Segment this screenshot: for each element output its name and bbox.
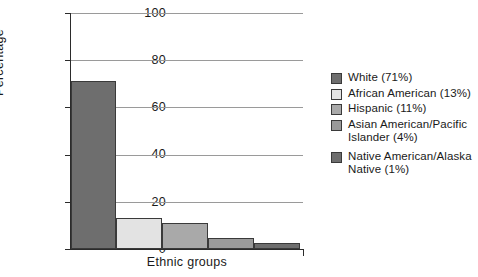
legend-swatch-african-american <box>331 89 342 100</box>
bar-asian-american <box>208 238 254 249</box>
y-axis-title: Percentage <box>0 29 6 96</box>
legend-item-asian-american: Asian American/Pacific Islander (4%) <box>331 118 476 145</box>
x-axis-title: Ethnic groups <box>71 255 303 269</box>
x-axis-end-tick <box>303 249 304 256</box>
y-tick-mark-80 <box>65 60 71 61</box>
legend-swatch-white <box>331 73 342 84</box>
chart-screenshot: 100 80 60 40 20 0 Percentage Ethnic grou… <box>0 0 478 277</box>
legend-item-white: White (71%) <box>331 71 476 85</box>
bar-native-american <box>254 243 300 249</box>
bar-white <box>71 81 116 249</box>
legend-label-white: White (71%) <box>348 71 412 85</box>
bar-hispanic <box>162 223 208 249</box>
legend-swatch-hispanic <box>331 104 342 115</box>
bar-african-american <box>116 218 162 249</box>
legend-label-african-american: African American (13%) <box>348 87 471 101</box>
plot-area <box>71 13 303 249</box>
gridline-100 <box>71 13 303 14</box>
chart-legend: White (71%) African American (13%) Hispa… <box>331 71 476 179</box>
gridline-80 <box>71 60 303 61</box>
legend-label-asian-american: Asian American/Pacific Islander (4%) <box>348 118 476 145</box>
legend-label-native-american: Native American/Alaska Native (1%) <box>348 150 476 177</box>
legend-item-native-american: Native American/Alaska Native (1%) <box>331 150 476 177</box>
legend-item-african-american: African American (13%) <box>331 87 476 101</box>
legend-label-hispanic: Hispanic (11%) <box>348 102 427 116</box>
y-tick-mark-0 <box>65 249 71 250</box>
legend-swatch-native-american <box>331 152 342 163</box>
legend-item-hispanic: Hispanic (11%) <box>331 102 476 116</box>
legend-swatch-asian-american <box>331 120 342 131</box>
y-tick-mark-100 <box>65 13 71 14</box>
x-axis-line <box>70 249 304 250</box>
